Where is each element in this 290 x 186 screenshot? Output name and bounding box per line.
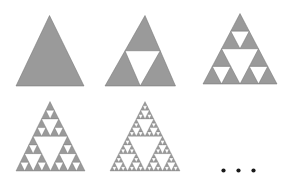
ellipsis-dot-1 bbox=[221, 168, 225, 172]
ellipsis-dot-3 bbox=[251, 168, 255, 172]
sierpinski-figure bbox=[0, 0, 290, 186]
ellipsis-dot-2 bbox=[236, 168, 240, 172]
figure-canvas bbox=[0, 0, 290, 186]
